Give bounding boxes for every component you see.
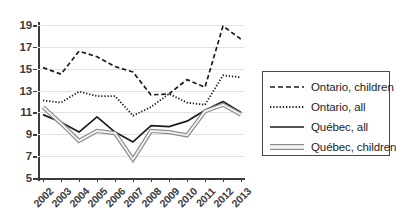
legend-item-quebec-all: Québec, all bbox=[263, 117, 389, 137]
y-tick-label: 19 bbox=[20, 19, 32, 31]
legend-label: Québec, all bbox=[311, 121, 368, 133]
y-tick-mark bbox=[33, 47, 37, 49]
legend-item-quebec-children: Québec, children bbox=[263, 137, 389, 157]
series-layer bbox=[38, 25, 244, 178]
gray-band-line-swatch bbox=[270, 141, 304, 153]
series-line-quebec-children-outer bbox=[43, 105, 241, 160]
x-tick-mark bbox=[133, 178, 134, 182]
y-tick-mark bbox=[33, 112, 37, 114]
y-axis-labels: 5791113151719 bbox=[0, 0, 32, 221]
x-tick-mark bbox=[169, 178, 170, 182]
y-tick-mark bbox=[33, 134, 37, 136]
x-tick-mark bbox=[205, 178, 206, 182]
x-tick-mark bbox=[115, 178, 116, 182]
legend-item-ontario-all: Ontario, all bbox=[263, 97, 389, 117]
y-tick-mark bbox=[33, 91, 37, 93]
y-tick-mark bbox=[33, 25, 37, 27]
y-tick-mark bbox=[33, 69, 37, 71]
legend-item-ontario-children: Ontario, children bbox=[263, 77, 389, 97]
dashed-line-swatch bbox=[270, 81, 304, 93]
x-tick-mark bbox=[241, 178, 242, 182]
dotted-line-swatch bbox=[270, 101, 304, 113]
series-line-ontario-children bbox=[43, 26, 241, 95]
legend-label: Ontario, all bbox=[311, 101, 365, 113]
x-tick-mark bbox=[151, 178, 152, 182]
y-tick-label: 9 bbox=[26, 128, 32, 140]
y-tick-label: 17 bbox=[20, 41, 32, 53]
y-tick-label: 15 bbox=[20, 63, 32, 75]
y-tick-mark bbox=[33, 156, 37, 158]
x-tick-mark bbox=[187, 178, 188, 182]
y-tick-label: 7 bbox=[26, 150, 32, 162]
plot-area bbox=[38, 25, 244, 178]
y-tick-label: 5 bbox=[26, 172, 32, 184]
x-tick-mark bbox=[43, 178, 44, 182]
x-tick-mark bbox=[97, 178, 98, 182]
y-tick-label: 11 bbox=[20, 106, 32, 118]
x-tick-mark bbox=[61, 178, 62, 182]
x-axis-line bbox=[37, 178, 245, 180]
x-tick-label: 2013 bbox=[229, 185, 253, 209]
y-tick-label: 13 bbox=[20, 85, 32, 97]
chart-legend: Ontario, children Ontario, all Québec, a… bbox=[262, 71, 390, 156]
x-tick-mark bbox=[223, 178, 224, 182]
legend-label: Québec, children bbox=[311, 141, 396, 153]
solid-line-swatch bbox=[270, 121, 304, 133]
y-tick-mark bbox=[33, 178, 37, 180]
x-tick-mark bbox=[79, 178, 80, 182]
legend-label: Ontario, children bbox=[311, 81, 394, 93]
